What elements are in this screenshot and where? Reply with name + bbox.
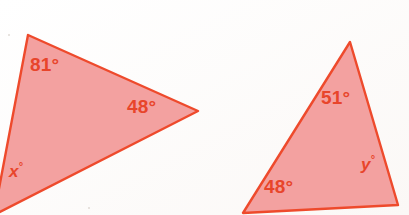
left-triangle-angle-81: 81°	[30, 55, 59, 74]
left-triangle-angle-48: 48°	[127, 97, 156, 116]
left-angle-x-variable: x	[9, 162, 19, 181]
right-triangle-angle-48: 48°	[264, 177, 293, 196]
right-triangle-angle-51: 51°	[321, 88, 350, 107]
scan-speck	[88, 207, 90, 209]
right-triangle-angle-y: y°	[361, 154, 375, 173]
left-triangle-angle-x: x°	[9, 161, 23, 180]
right-angle-y-degree-symbol: °	[371, 153, 376, 165]
left-angle-x-degree-symbol: °	[19, 160, 24, 172]
scan-speck	[8, 34, 10, 36]
right-angle-y-variable: y	[361, 155, 371, 174]
figure-root: 81° 48° x° 51° 48° y°	[0, 0, 409, 215]
